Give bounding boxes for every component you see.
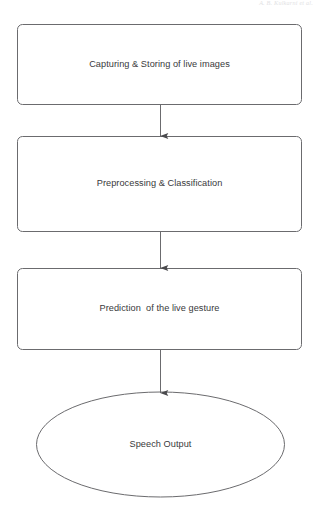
process-box-capture[interactable]: Capturing & Storing of live images (17, 24, 302, 105)
process-box-predict[interactable]: Prediction of the live gesture (17, 268, 302, 350)
connector-preprocess-to-predict (150, 232, 170, 268)
terminal-ellipse-speech-label: Speech Output (130, 439, 192, 451)
process-box-predict-label: Prediction of the live gesture (99, 303, 219, 315)
terminal-ellipse-speech[interactable]: Speech Output (36, 392, 285, 497)
connector-capture-to-preprocess (150, 105, 170, 136)
process-box-preprocess-label: Preprocessing & Classification (97, 178, 223, 190)
process-box-capture-label: Capturing & Storing of live images (89, 59, 230, 71)
process-box-preprocess[interactable]: Preprocessing & Classification (17, 136, 302, 232)
connector-predict-to-speech (150, 350, 170, 392)
